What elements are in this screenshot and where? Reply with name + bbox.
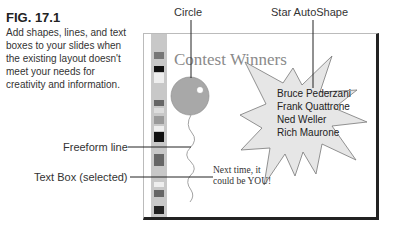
freeform-callout-label: Freeform line	[63, 141, 128, 153]
winner-3: Ned Weller	[277, 113, 351, 126]
textbox-callout-label: Text Box (selected)	[34, 171, 128, 183]
winner-4: Rich Maurone	[277, 126, 351, 139]
winner-2: Frank Quattrone	[277, 100, 351, 113]
circle-shape	[171, 77, 209, 115]
circle-callout-label: Circle	[174, 6, 202, 18]
winner-1: Bruce Pederzani	[277, 87, 351, 100]
textbox-line-1: Next time, it	[213, 165, 271, 176]
star-callout-label: Star AutoShape	[271, 6, 348, 18]
textbox-line-2: could be YOU!	[213, 176, 271, 187]
star-text: Bruce Pederzani Frank Quattrone Ned Well…	[277, 87, 351, 139]
text-box-selected[interactable]: Next time, it could be YOU!	[213, 165, 271, 187]
freeform-line	[187, 115, 195, 202]
circle-highlight	[197, 87, 204, 94]
